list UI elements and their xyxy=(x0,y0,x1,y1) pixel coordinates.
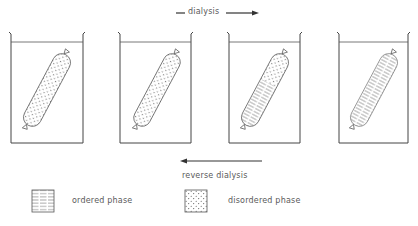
dialysis-bag xyxy=(236,46,294,134)
legend-swatch-ordered xyxy=(32,190,54,212)
dialysis-bag xyxy=(128,46,185,133)
beaker-1 xyxy=(9,32,85,143)
reverse-dialysis-label: reverse dialysis xyxy=(182,171,248,180)
reverse-dialysis-arrow xyxy=(180,159,262,164)
dialysis-label: dialysis xyxy=(188,7,219,16)
legend-label-ordered: ordered phase xyxy=(72,196,132,205)
legend-label-disordered: disordered phase xyxy=(228,196,301,205)
dialysis-diagram xyxy=(0,0,418,226)
beaker-2 xyxy=(118,32,193,143)
beaker-3 xyxy=(227,32,302,143)
beaker-4 xyxy=(337,32,410,143)
dialysis-bag xyxy=(18,46,76,134)
legend-swatch-disordered xyxy=(185,190,207,212)
dialysis-bag xyxy=(345,46,403,134)
